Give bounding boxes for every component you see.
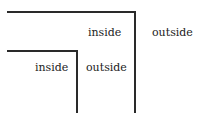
inner-box-top-edge	[7, 50, 78, 52]
inner-outside-label: outside	[86, 62, 127, 73]
inner-box-right-edge	[76, 50, 78, 113]
inner-inside-label: inside	[35, 62, 68, 73]
outer-box-right-edge	[134, 11, 136, 113]
outer-outside-label: outside	[152, 27, 193, 38]
outer-inside-label: inside	[88, 27, 121, 38]
outer-box-top-edge	[7, 11, 136, 13]
